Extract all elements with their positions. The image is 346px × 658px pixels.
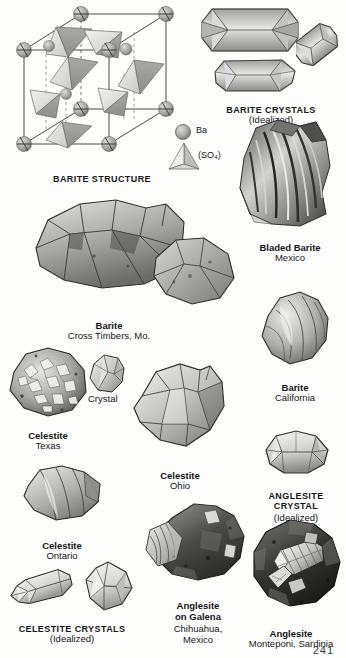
barite-crystal-tabular-a (198, 4, 302, 56)
bladed-barite-caption-main: Bladed Barite (259, 242, 320, 253)
celestite-ohio-caption-main: Celestite (160, 470, 200, 481)
celestite-crystal-prism (6, 566, 78, 610)
celestite-crystals-subcaption: (Idealized) (2, 634, 142, 645)
anglesite-crystal-idealized-specimen (262, 428, 332, 478)
anglesite-on-galena-specimen (142, 500, 252, 590)
barite-california-caption: Barite California (254, 372, 336, 415)
celestite-texas-specimen (4, 344, 92, 420)
barite-california-specimen (254, 288, 334, 370)
barite-california-caption-main: Barite (282, 382, 309, 393)
barite-crystal-tabular-b (296, 22, 344, 78)
anglesite-crystal-caption-main: ANGLESITE CRYSTAL (268, 491, 323, 512)
bladed-barite-specimen (234, 118, 336, 230)
celestite-texas-caption: Celestite Texas (6, 420, 90, 463)
celestite-ontario-caption-main: Celestite (42, 540, 82, 551)
celestite-ohio-caption: Celestite Ohio (130, 460, 230, 503)
celestite-texas-caption-main: Celestite (28, 430, 68, 441)
celestite-texas-subcaption: Texas (6, 441, 90, 452)
legend-so4-tetrahedron (166, 140, 202, 178)
anglesite-on-galena-subcaption: Chihuahua, Mexico (146, 623, 250, 646)
barite-cross-timbers-specimen (24, 196, 239, 308)
page-number: 241 (313, 644, 334, 656)
celestite-texas-crystal-specimen (86, 352, 128, 396)
barite-crystal-tabular-c (212, 58, 298, 94)
barite-structure-diagram (6, 2, 196, 162)
celestite-ohio-subcaption: Ohio (130, 481, 230, 492)
celestite-ontario-specimen (20, 462, 106, 528)
anglesite-on-galena-caption-main: Anglesite on Galena (175, 600, 221, 623)
bladed-barite-caption: Bladed Barite Mexico (236, 232, 344, 275)
barite-cross-timbers-caption-main: Barite (96, 320, 123, 331)
barite-cross-timbers-subcaption: Cross Timbers, Mo. (34, 331, 184, 342)
anglesite-monteponi-specimen (244, 518, 346, 612)
celestite-ohio-specimen (126, 360, 232, 456)
anglesite-on-galena-caption: Anglesite on Galena Chihuahua, Mexico (146, 588, 250, 657)
anglesite-monteponi-caption-main: Anglesite (270, 628, 313, 639)
bladed-barite-subcaption: Mexico (236, 253, 344, 264)
barite-california-subcaption: California (254, 393, 336, 404)
barite-structure-caption: BARITE STRUCTURE (22, 174, 182, 184)
celestite-crystal-dipyramid (82, 560, 136, 612)
celestite-crystals-idealized-caption: CELESTITE CRYSTALS (Idealized) (2, 614, 142, 655)
